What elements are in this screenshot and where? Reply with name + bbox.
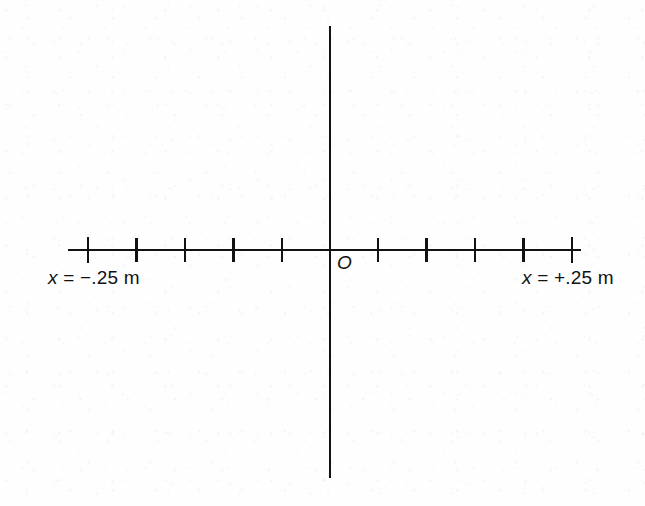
axis-label-left-relation: =	[58, 267, 80, 288]
axis-label-right: x = +.25 m	[522, 267, 614, 289]
axis-label-left-variable: x	[48, 267, 58, 288]
number-line-figure: O x = −.25 m x = +.25 m	[0, 0, 645, 506]
axis-label-right-value: +.25 m	[554, 267, 614, 288]
axis-label-right-relation: =	[532, 267, 554, 288]
axis-canvas	[0, 0, 645, 506]
axis-label-left: x = −.25 m	[48, 267, 140, 289]
axis-label-left-value: −.25 m	[80, 267, 140, 288]
axis-label-right-variable: x	[522, 267, 532, 288]
origin-label: O	[337, 252, 352, 274]
